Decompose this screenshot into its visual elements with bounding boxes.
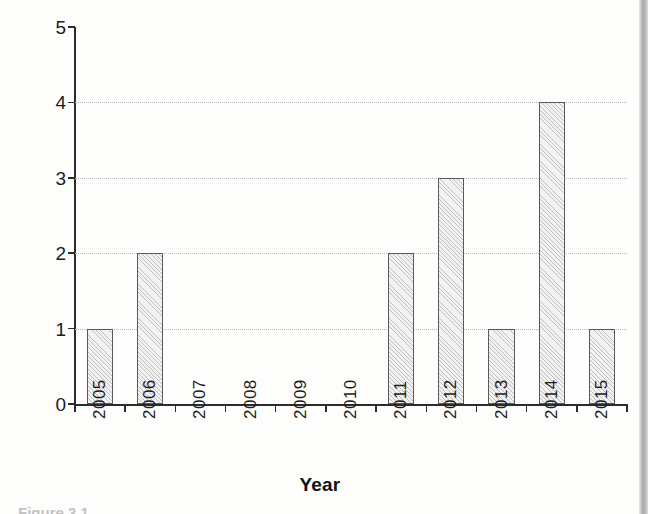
x-axis-tick (375, 404, 376, 412)
y-axis-tick-label: 5 (55, 18, 66, 37)
y-axis-tick (68, 177, 75, 179)
x-axis-tick-label: 2011 (391, 380, 411, 419)
y-axis-line (74, 27, 76, 405)
x-axis-tick-label: 2014 (542, 379, 562, 419)
plot-area: 012345 200520062007200820092010201120122… (75, 27, 627, 404)
figure-caption-remnant: Figure 3.1 (18, 505, 89, 514)
x-axis-tick-label: 2005 (90, 379, 110, 419)
x-axis-tick-label: 2013 (492, 379, 512, 419)
scan-edge-shadow (639, 0, 648, 514)
x-axis-tick-label: 2010 (341, 379, 361, 419)
x-axis-tick (225, 404, 226, 412)
y-axis-title: Frequency of landslides (7, 0, 33, 53)
y-axis-tick-label: 2 (55, 244, 66, 263)
x-axis-tick (526, 404, 527, 412)
x-axis-tick-label: 2015 (592, 379, 612, 419)
y-axis-tick (68, 102, 75, 104)
y-axis-tick (68, 26, 75, 28)
y-axis-tick-label: 3 (55, 168, 66, 187)
y-axis-tick (68, 328, 75, 330)
y-axis-tick-label: 0 (55, 395, 66, 414)
x-axis-tick (124, 404, 125, 412)
x-axis-tick-label: 2007 (190, 379, 210, 419)
x-axis-tick (426, 404, 427, 412)
x-axis-title: Year (0, 474, 640, 496)
x-axis-tick-label: 2012 (441, 379, 461, 419)
y-axis-tick-label: 4 (55, 93, 66, 112)
x-axis-tick (175, 404, 176, 412)
x-axis-tick (476, 404, 477, 412)
x-axis-tick (626, 404, 627, 412)
x-axis-tick-label: 2006 (140, 379, 160, 419)
x-axis-tick (275, 404, 276, 412)
x-axis-tick (325, 404, 326, 412)
scan-edge-margin (648, 0, 656, 514)
scanned-page: Frequency of landslides 012345 200520062… (0, 0, 656, 514)
x-axis-tick-label: 2008 (241, 379, 261, 419)
x-axis-tick (74, 404, 75, 412)
bar-2014 (539, 102, 565, 404)
x-axis-tick-label: 2009 (291, 379, 311, 419)
y-axis-tick (68, 252, 75, 254)
y-axis-tick-label: 1 (55, 319, 66, 338)
x-axis-tick (576, 404, 577, 412)
bar-2012 (438, 178, 464, 404)
